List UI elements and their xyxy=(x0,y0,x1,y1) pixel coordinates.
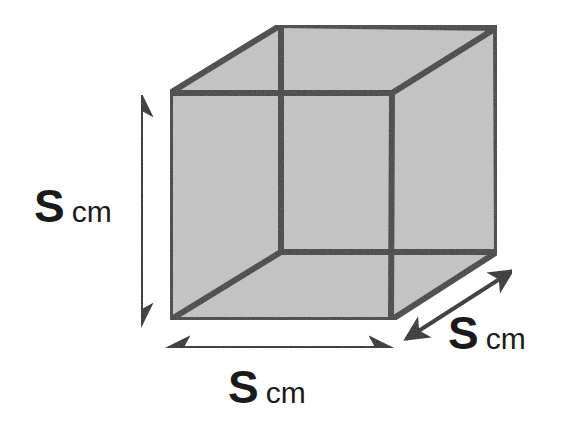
width-label-symbol: S xyxy=(228,361,259,413)
cube-faces xyxy=(170,25,497,320)
depth-dimension-label: Scm xyxy=(448,310,526,356)
height-dimension-label: Scm xyxy=(34,183,112,229)
edge-front-right xyxy=(391,93,392,320)
height-label-symbol: S xyxy=(34,180,65,232)
edge-back-right xyxy=(496,28,497,252)
height-label-unit: cm xyxy=(72,195,112,228)
width-label-unit: cm xyxy=(266,376,306,409)
edge-back-top xyxy=(281,25,496,28)
figure-canvas: Scm Scm Scm xyxy=(0,0,587,427)
depth-label-symbol: S xyxy=(448,307,479,359)
depth-label-unit: cm xyxy=(486,322,526,355)
width-dimension-label: Scm xyxy=(228,364,306,410)
